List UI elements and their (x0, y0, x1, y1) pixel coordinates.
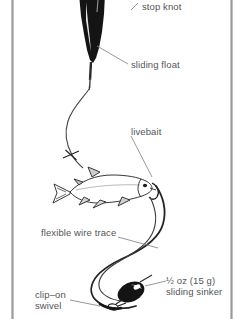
stop-knot-marker (63, 150, 79, 160)
label-sinker-weight: ½ oz (15 g) (166, 275, 215, 286)
label-sinker-name: sliding sinker (166, 286, 222, 297)
label-livebait: livebait (131, 126, 161, 137)
leader-flexible-wire-trace (118, 237, 158, 248)
livebait-icon (53, 167, 156, 208)
label-clip-on-swivel-group: clip–on swivel (35, 289, 97, 311)
label-stop-knot: stop knot (142, 1, 181, 12)
main-line (66, 89, 89, 168)
label-flexible-wire-trace: flexible wire trace (41, 227, 116, 238)
clip-on-swivel-icon (100, 303, 126, 311)
leader-sliding-sinker (145, 281, 166, 286)
label-swivel: swivel (35, 300, 61, 311)
fishing-rig-figure: stop knot sliding float livebait flexibl… (0, 0, 244, 319)
label-clip-on: clip–on (35, 289, 66, 300)
leader-stop-knot (131, 3, 138, 10)
leader-sliding-float (97, 46, 128, 64)
rig-illustration (0, 0, 244, 319)
leader-livebait (131, 136, 152, 177)
sliding-float-icon (79, 0, 105, 90)
label-sliding-float: sliding float (131, 59, 180, 70)
sliding-sinker-icon (114, 275, 152, 306)
label-sliding-sinker-group: ½ oz (15 g) sliding sinker (166, 275, 238, 297)
